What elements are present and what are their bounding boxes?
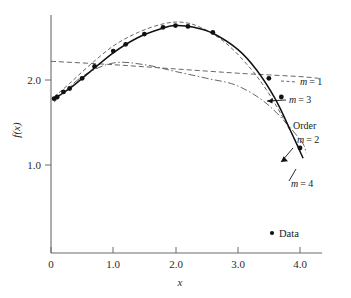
annotation-m3-var: m xyxy=(289,94,296,105)
data-point xyxy=(210,30,215,35)
data-point xyxy=(55,95,60,100)
data-point xyxy=(266,76,271,81)
data-point xyxy=(92,64,97,69)
chart-figure: 0 1.0 2.0 3.0 4.0 2.0 1.0 x f(x) m= 1 xyxy=(0,0,351,298)
x-tick-label-4: 4.0 xyxy=(293,258,307,270)
x-tick-label-0: 0 xyxy=(48,258,54,270)
annotation-m2-val: = 2 xyxy=(306,134,319,145)
y-tick-label-2: 2.0 xyxy=(27,74,41,86)
data-point xyxy=(186,24,191,29)
annotation-m1-var: m xyxy=(300,76,307,87)
data-point xyxy=(61,90,66,95)
data-point xyxy=(123,42,128,47)
data-point xyxy=(111,49,116,54)
annotation-m3: m= 3 xyxy=(289,94,311,105)
annotation-m1: m= 1 xyxy=(300,76,322,87)
data-point xyxy=(142,32,147,37)
data-point xyxy=(161,25,166,30)
data-point xyxy=(67,86,72,91)
x-tick-label-3: 3.0 xyxy=(231,258,245,270)
annotation-m4-val: = 4 xyxy=(300,178,313,189)
y-axis-title: f(x) xyxy=(10,122,23,138)
chart-svg: 0 1.0 2.0 3.0 4.0 2.0 1.0 x f(x) m= 1 xyxy=(0,0,351,298)
legend-data-label: Data xyxy=(279,228,299,239)
data-point xyxy=(298,146,303,151)
x-axis-title: x xyxy=(177,276,183,288)
annotation-m4-var: m xyxy=(291,178,298,189)
annotation-m4: m= 4 xyxy=(291,178,313,189)
x-tick-label-1: 1.0 xyxy=(106,258,120,270)
annotation-m2: m= 2 xyxy=(297,134,319,145)
annotation-m1-val: = 1 xyxy=(309,76,322,87)
annotation-m3-val: = 3 xyxy=(298,94,311,105)
data-point xyxy=(279,95,284,100)
annotation-m2-var: m xyxy=(297,134,304,145)
x-tick-label-2: 2.0 xyxy=(169,258,183,270)
data-point xyxy=(173,23,178,28)
legend-data-marker-icon xyxy=(270,231,274,235)
data-point xyxy=(80,76,85,81)
y-tick-label-1: 1.0 xyxy=(27,159,41,171)
annotation-order: Order xyxy=(293,120,317,131)
